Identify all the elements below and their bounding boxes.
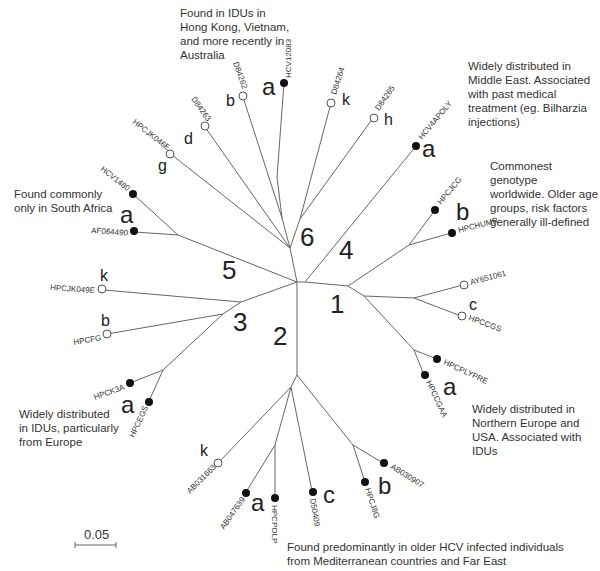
leaf-label: D84262 xyxy=(231,61,249,91)
subtype-label-3k: k xyxy=(100,267,109,284)
leaf-label: AB030907 xyxy=(389,462,426,490)
leaf-marker-AB047639 xyxy=(242,489,250,497)
leaf-marker-HCV1480 xyxy=(129,190,137,198)
leaf-marker-HPCPOLP xyxy=(271,494,279,502)
leaf-marker-HCV12083 xyxy=(280,79,288,87)
leaf-marker-HPCPLYPRE xyxy=(433,355,441,363)
leaf-marker-AB030907 xyxy=(380,459,388,467)
leaf-marker-AY651061 xyxy=(460,281,468,289)
annotation-genotype-3a: Widely distributed in IDUs, particularly… xyxy=(19,407,119,449)
leaf-marker-AB031663 xyxy=(214,459,222,467)
leaf-label: HPCCGS xyxy=(467,313,502,333)
subtype-label-6h: h xyxy=(384,111,393,128)
subtype-label-1c: c xyxy=(469,296,477,313)
leaf-label: D84263 xyxy=(189,95,213,124)
genotype-label-5: 5 xyxy=(222,255,236,285)
leaf-label: HPCJK046E xyxy=(131,117,172,152)
leaf-marker-HPCJCG xyxy=(431,206,439,214)
leaf-marker-HPCJ8G xyxy=(361,478,369,486)
leaf-marker-HPCK3A xyxy=(126,379,134,387)
genotype-label-2: 2 xyxy=(273,321,287,351)
subtype-label-5a: a xyxy=(120,201,134,228)
subtype-label-3b: b xyxy=(101,312,110,329)
leaf-markers xyxy=(98,79,468,502)
subtype-label-4a: a xyxy=(422,135,436,162)
leaf-label: HPCFG xyxy=(73,333,102,347)
subtype-label-6a: a xyxy=(262,73,276,100)
subtype-label-1b: b xyxy=(456,198,469,225)
leaf-marker-AF064490 xyxy=(130,227,138,235)
subtype-label-2b: b xyxy=(378,472,391,499)
leaf-marker-HPCCGAA xyxy=(421,371,429,379)
leaf-marker-D84262 xyxy=(239,92,247,100)
annotation-genotype-1b: Commonest genotype worldwide. Older age … xyxy=(490,159,600,229)
leaf-marker-D84264 xyxy=(327,99,335,107)
leaf-label: D50409 xyxy=(308,498,322,528)
leaf-marker-D84265 xyxy=(370,114,378,122)
genotype-label-3: 3 xyxy=(233,307,247,337)
leaf-marker-HCV4APOLY xyxy=(412,142,420,150)
leaf-marker-HPCEGS xyxy=(145,398,153,406)
annotation-genotype-2: Found predominantly in older HCV infecte… xyxy=(287,540,564,568)
leaf-label: AY651061 xyxy=(469,269,507,287)
leaf-marker-D50409 xyxy=(309,488,317,496)
leaf-label: HPCPOLP xyxy=(270,505,279,543)
leaf-label: D84265 xyxy=(373,84,397,113)
scale-bar: 0.05 xyxy=(75,527,116,548)
subtype-label-3a: a xyxy=(121,391,135,418)
subtype-label-6g: g xyxy=(158,157,167,174)
leaf-label: AB047639 xyxy=(218,495,247,531)
leaf-marker-HPCCGS xyxy=(458,312,466,320)
leaf-marker-HPCJK046E xyxy=(166,150,174,158)
leaf-marker-D84263 xyxy=(201,122,209,130)
subtype-label-2k: k xyxy=(200,442,209,459)
leaf-marker-HPCJK049E xyxy=(98,285,106,293)
subtype-label-2a: a xyxy=(251,489,265,516)
subtype-label-6d: d xyxy=(184,130,193,147)
leaf-marker-HPCHUMR xyxy=(448,229,456,237)
genotype-label-6: 6 xyxy=(300,222,314,252)
annotation-genotype-6: Found in IDUs in Hong Kong, Vietnam, and… xyxy=(180,6,289,62)
subtype-label-1a: a xyxy=(443,373,457,400)
leaf-marker-HPCFG xyxy=(103,330,111,338)
annotation-genotype-1a: Widely distributed in Northern Europe an… xyxy=(472,402,581,458)
scale-bar-label: 0.05 xyxy=(84,527,109,542)
annotation-genotype-5: Found commonly only in South Africa xyxy=(14,187,112,215)
subtype-label-6b: b xyxy=(226,92,235,109)
leaf-label: HPCJK049E xyxy=(50,283,95,295)
subtype-label-6k: k xyxy=(342,91,351,108)
subtype-label-2c: c xyxy=(323,481,335,508)
annotation-genotype-4: Widely distributed in Middle East. Assoc… xyxy=(468,59,590,129)
genotype-label-1: 1 xyxy=(330,289,344,319)
leaf-label: AB031663 xyxy=(185,462,218,495)
genotype-label-4: 4 xyxy=(339,235,353,265)
